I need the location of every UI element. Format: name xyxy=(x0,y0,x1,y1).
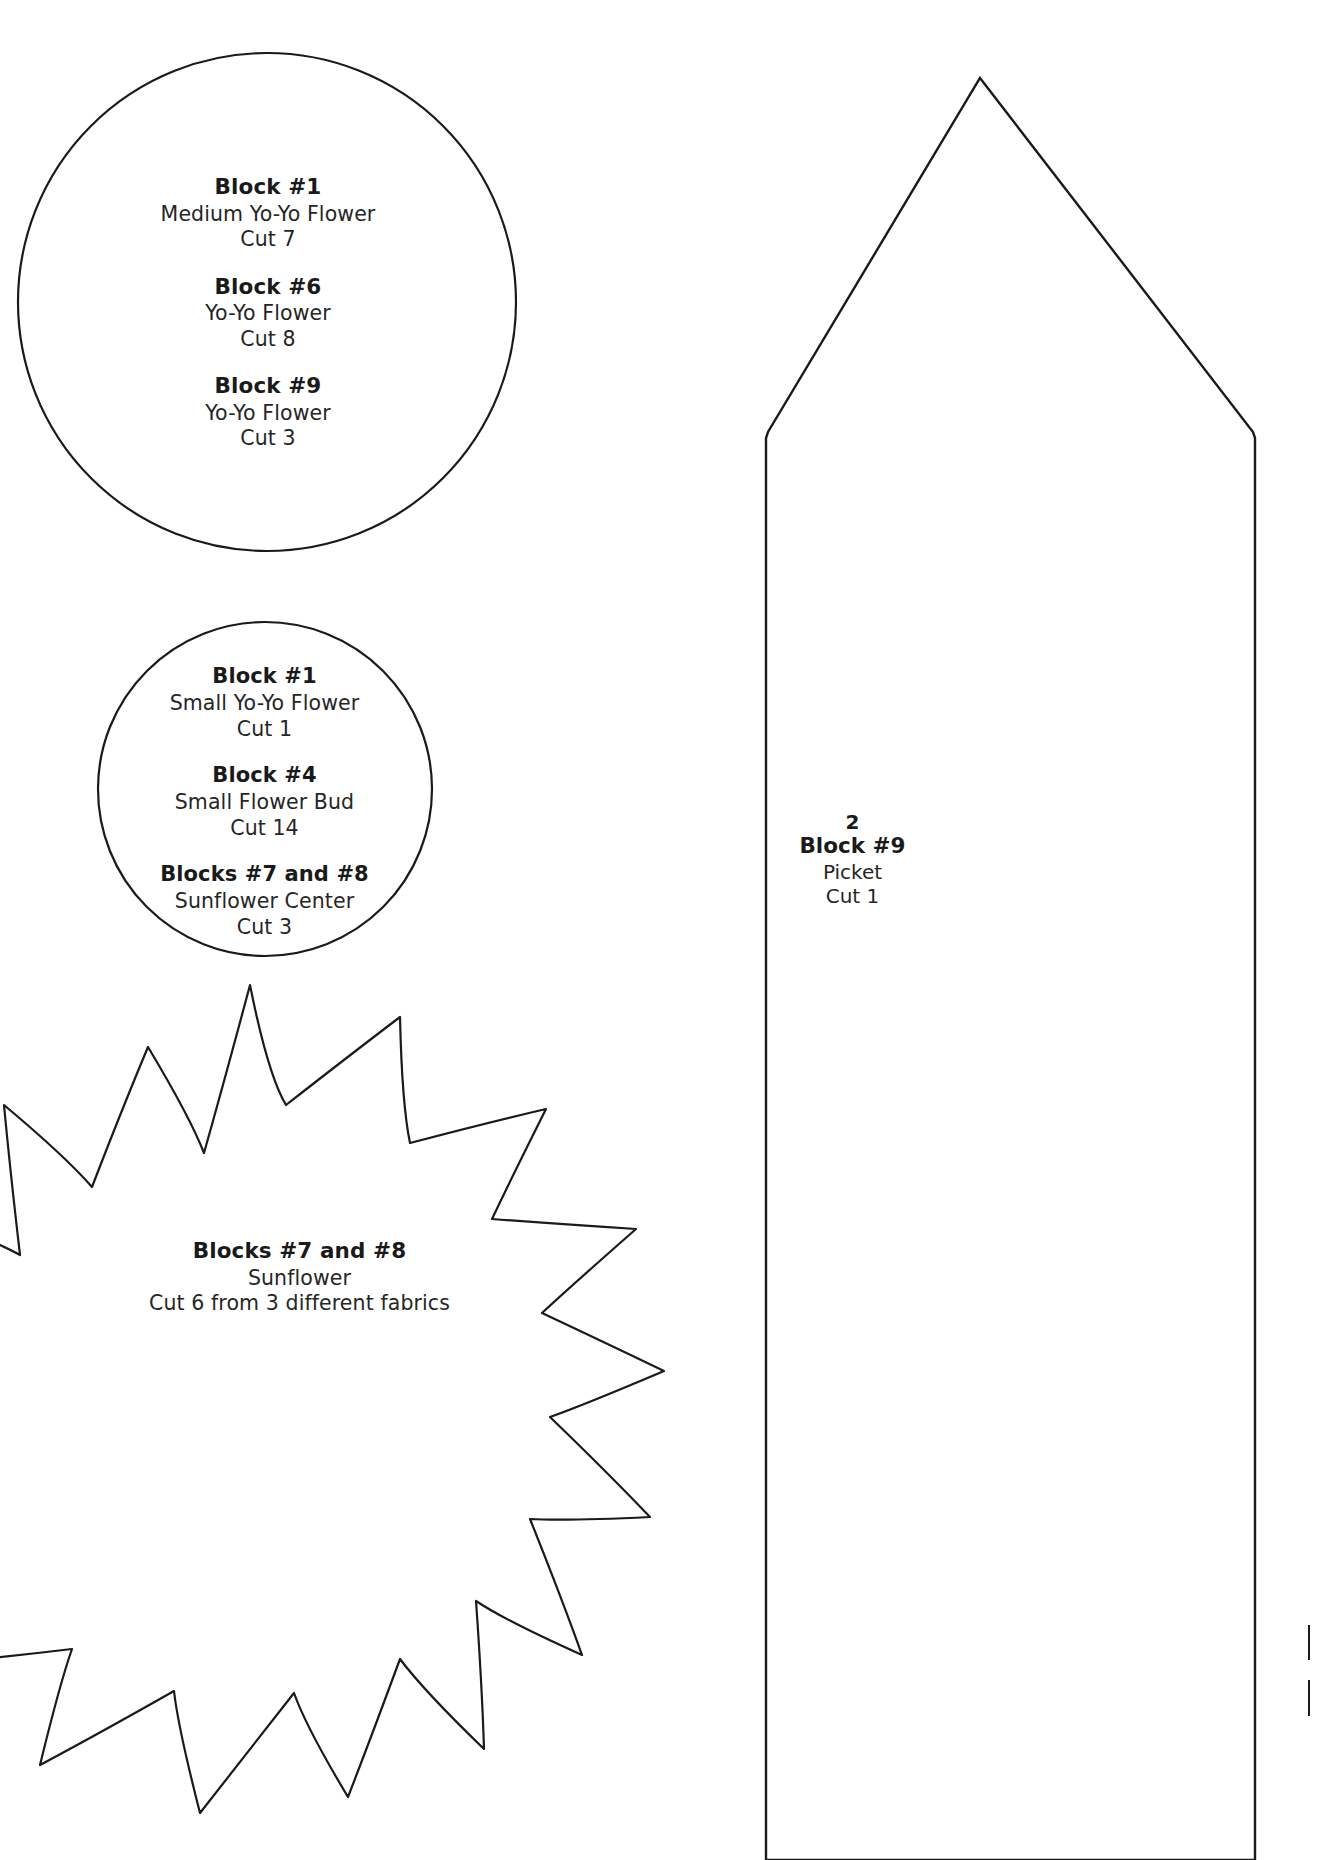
large-circle-label-block: Block #1 Medium Yo-Yo Flower Cut 7 Block… xyxy=(68,176,468,449)
label-cut-count: Cut 3 xyxy=(62,917,467,938)
label-title: Block #9 xyxy=(68,375,468,397)
picket-label-block: 2 Block #9 Picket Cut 1 xyxy=(730,812,975,910)
label-group-blocks78-sunflower: Blocks #7 and #8 Sunflower Cut 6 from 3 … xyxy=(72,1240,527,1314)
label-cut-count: Cut 3 xyxy=(68,428,468,449)
label-group-block9: Block #9 Yo-Yo Flower Cut 3 xyxy=(68,375,468,449)
pattern-sheet: Block #1 Medium Yo-Yo Flower Cut 7 Block… xyxy=(0,0,1317,1860)
small-circle-label-block: Block #1 Small Yo-Yo Flower Cut 1 Block … xyxy=(62,666,467,937)
label-title: Block #1 xyxy=(62,666,467,687)
sunflower-outline xyxy=(0,985,664,1813)
label-cut-count: Cut 1 xyxy=(62,719,467,740)
label-title: Block #9 xyxy=(730,835,975,857)
sunflower-label-block: Blocks #7 and #8 Sunflower Cut 6 from 3 … xyxy=(72,1240,527,1314)
label-cut-count: Cut 6 from 3 different fabrics xyxy=(72,1293,527,1314)
label-piece-name: Sunflower Center xyxy=(62,891,467,912)
label-piece-name: Medium Yo-Yo Flower xyxy=(68,204,468,225)
label-cut-count: Cut 1 xyxy=(730,886,975,906)
label-piece-name: Picket xyxy=(730,862,975,882)
label-title: Blocks #7 and #8 xyxy=(72,1240,527,1262)
label-title: Block #6 xyxy=(68,276,468,298)
label-group-block1-small: Block #1 Small Yo-Yo Flower Cut 1 xyxy=(62,666,467,739)
label-cut-count: Cut 8 xyxy=(68,329,468,350)
label-cut-count: Cut 14 xyxy=(62,818,467,839)
label-title: Block #1 xyxy=(68,176,468,198)
picket-number: 2 xyxy=(730,812,975,832)
label-group-block4: Block #4 Small Flower Bud Cut 14 xyxy=(62,765,467,838)
label-piece-name: Yo-Yo Flower xyxy=(68,303,468,324)
sunflower-group xyxy=(0,985,664,1813)
label-piece-name: Sunflower xyxy=(72,1268,527,1289)
label-piece-name: Small Yo-Yo Flower xyxy=(62,693,467,714)
label-piece-name: Small Flower Bud xyxy=(62,792,467,813)
label-group-block6: Block #6 Yo-Yo Flower Cut 8 xyxy=(68,276,468,350)
label-group-block1: Block #1 Medium Yo-Yo Flower Cut 7 xyxy=(68,176,468,250)
label-group-blocks78-center: Blocks #7 and #8 Sunflower Center Cut 3 xyxy=(62,864,467,937)
label-cut-count: Cut 7 xyxy=(68,229,468,250)
label-title: Block #4 xyxy=(62,765,467,786)
label-piece-name: Yo-Yo Flower xyxy=(68,403,468,424)
picket-outline xyxy=(766,78,1255,1860)
label-title: Blocks #7 and #8 xyxy=(62,864,467,885)
